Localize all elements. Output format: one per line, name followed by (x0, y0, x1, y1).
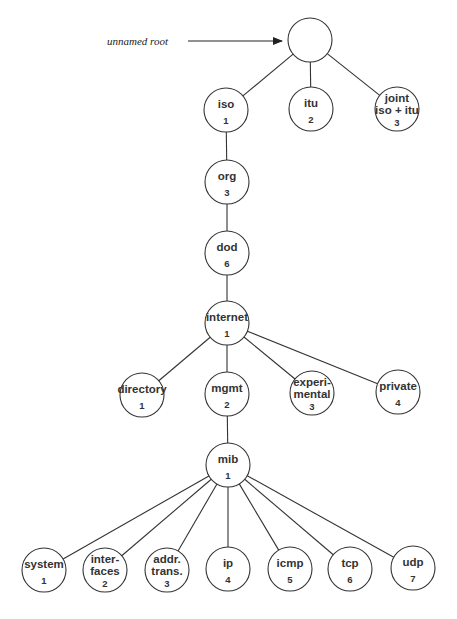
node-label: iso + itu (375, 104, 419, 116)
node-label: icmp (277, 557, 304, 569)
node-internet: internet1 (205, 301, 249, 345)
node-label: mgmt (211, 382, 242, 394)
node-itu: itu2 (289, 87, 333, 131)
node-dod: dod6 (205, 231, 249, 275)
node-root (288, 18, 332, 62)
node-label: inter- (91, 553, 120, 565)
node-number: 1 (224, 328, 230, 339)
unnamed-root-label: unnamed root (107, 35, 169, 47)
node-mgmt: mgmt2 (205, 372, 249, 416)
node-number: 1 (223, 115, 229, 126)
node-private: private4 (376, 370, 420, 414)
edge-mib-udp (247, 476, 394, 558)
node-number: 3 (224, 187, 229, 198)
node-experimental: experi-mental3 (290, 371, 334, 415)
node-system: system1 (22, 548, 66, 592)
node-label: system (24, 558, 64, 570)
edge-mib-icmp (239, 484, 278, 550)
node-tcp: tcp6 (328, 547, 372, 591)
node-label: dod (216, 241, 237, 253)
node-label: mib (218, 453, 238, 465)
node-number: 2 (308, 114, 313, 125)
edge-mib-tcp (245, 479, 334, 554)
node-label: tcp (341, 557, 358, 569)
annotation: unnamed root (107, 35, 282, 47)
node-label: directory (117, 383, 167, 395)
node-number: 2 (102, 578, 107, 589)
node-circle (288, 18, 332, 62)
edge-internet-directory (159, 337, 210, 381)
node-mib: mib1 (206, 443, 250, 487)
node-interfaces: inter-faces2 (83, 548, 127, 592)
node-number: 6 (347, 574, 352, 585)
node-number: 3 (309, 401, 314, 412)
edge-mib-addr-trans (178, 484, 217, 551)
node-number: 1 (41, 575, 47, 586)
node-joint: jointiso + itu3 (375, 87, 419, 131)
node-icmp: icmp5 (268, 547, 312, 591)
node-label: itu (304, 97, 318, 109)
node-number: 2 (224, 399, 229, 410)
node-label: addr. (153, 553, 180, 565)
node-number: 4 (225, 574, 231, 585)
node-label: private (379, 380, 417, 392)
node-label: org (218, 170, 237, 182)
node-addr-trans: addr.trans.3 (145, 548, 189, 592)
edge-mib-system (63, 476, 209, 559)
node-number: 1 (225, 470, 231, 481)
node-label: faces (90, 565, 119, 577)
node-label: experi- (293, 376, 331, 388)
node-number: 3 (394, 117, 399, 128)
node-label: mental (293, 388, 330, 400)
edge-root-iso (243, 54, 293, 96)
node-label: trans. (151, 565, 182, 577)
node-number: 7 (410, 573, 415, 584)
node-label: joint (384, 92, 409, 104)
node-number: 6 (224, 258, 229, 269)
node-iso: iso1 (204, 88, 248, 132)
edge-root-joint (327, 54, 380, 96)
node-label: iso (218, 98, 235, 110)
node-number: 3 (164, 578, 169, 589)
node-label: udp (402, 556, 423, 568)
node-org: org3 (205, 160, 249, 204)
edge-internet-experimental (244, 337, 295, 379)
node-ip: ip4 (206, 547, 250, 591)
node-label: ip (223, 557, 233, 569)
node-number: 5 (287, 574, 293, 585)
node-number: 4 (395, 397, 401, 408)
oid-tree-diagram: unnamed root iso1itu2jointiso + itu3org3… (0, 0, 457, 619)
node-number: 1 (139, 400, 145, 411)
node-udp: udp7 (391, 546, 435, 590)
node-label: internet (206, 311, 248, 323)
